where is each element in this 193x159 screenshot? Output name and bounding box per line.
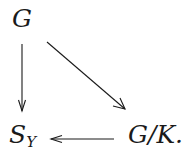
arrow-left — [51, 136, 114, 143]
arrow-diagonal — [47, 42, 125, 109]
arrows-layer — [0, 0, 193, 159]
arrow-down — [19, 44, 26, 111]
